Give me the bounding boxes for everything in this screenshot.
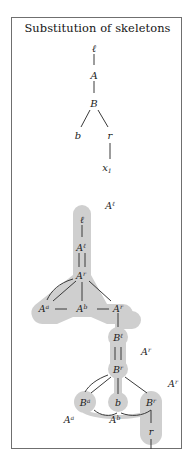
annotation-Ar-lower: Ar — [167, 378, 179, 389]
node-label-l-bottom: ℓ — [80, 214, 84, 225]
node-label-B-top: B — [89, 98, 97, 109]
node-label-b-top: b — [75, 130, 81, 141]
node-label-x1-top: x1 — [102, 162, 112, 174]
node-label-l-top: ℓ — [92, 43, 96, 54]
annotation-Ar-upper: Ar — [140, 346, 152, 357]
node-label-A-top: A — [89, 70, 97, 81]
edge-Br-Br2 — [125, 377, 147, 393]
edge-B-r — [98, 110, 108, 127]
node-label-r-top: r — [108, 130, 114, 141]
edge-B-b — [81, 110, 90, 127]
edge-Br-Ba — [91, 377, 111, 393]
skeleton-substitution-diagram: ℓ A B b r x1 — [11, 17, 182, 449]
annotation-Aa: Aa — [63, 414, 75, 425]
source-skeleton-tree: ℓ A B b r x1 — [75, 43, 114, 174]
edge-Br-Ba-curve — [85, 375, 108, 392]
annotation-Ab: Ab — [109, 414, 121, 425]
shaded-regions — [32, 205, 162, 445]
annotation-Al: Aℓ — [104, 200, 115, 211]
node-label-b-bottom: b — [115, 397, 121, 408]
